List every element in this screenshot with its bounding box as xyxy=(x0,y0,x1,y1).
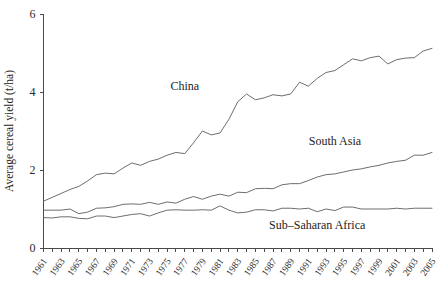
x-tick-label: 1999 xyxy=(366,256,385,278)
x-tick-label: 1997 xyxy=(348,256,367,278)
y-tick-label: 0 xyxy=(30,241,36,255)
x-tick-label: 1963 xyxy=(48,256,67,278)
y-tick-label: 2 xyxy=(30,163,36,177)
series-label-sub-saharan-africa: Sub–Saharan Africa xyxy=(269,218,366,232)
series-group xyxy=(44,48,433,218)
series-line-south-asia xyxy=(44,152,433,213)
series-line-china xyxy=(44,48,433,201)
y-axis-title: Average cereal yield (t/ha) xyxy=(3,70,16,192)
series-label-south-asia: South Asia xyxy=(309,134,362,148)
x-tick-label: 1993 xyxy=(313,256,332,278)
x-tick-label: 1991 xyxy=(295,256,314,278)
x-tick-label: 1967 xyxy=(83,256,102,278)
x-tick-label: 2001 xyxy=(383,256,402,278)
x-tick-label: 2005 xyxy=(419,256,438,278)
y-tick-label-group: 0246 xyxy=(30,7,36,255)
x-tick-label: 1975 xyxy=(154,256,173,278)
series-label-china: China xyxy=(170,79,199,93)
x-tick-label: 1989 xyxy=(277,256,296,278)
y-tick-group xyxy=(40,14,44,248)
y-axis: 0246 xyxy=(30,7,44,255)
series-label-group: ChinaSouth AsiaSub–Saharan Africa xyxy=(170,79,366,231)
x-tick-label: 1969 xyxy=(101,256,120,278)
x-tick-label: 1965 xyxy=(65,256,84,278)
x-tick-label: 2003 xyxy=(401,256,420,278)
cereal-yield-chart: 0246 19611963196519671969197119731975197… xyxy=(0,0,445,291)
x-tick-label-group: 1961196319651967196919711973197519771979… xyxy=(30,256,438,278)
chart-canvas: 0246 19611963196519671969197119731975197… xyxy=(0,0,445,291)
x-tick-label: 1985 xyxy=(242,256,261,278)
x-tick-label: 1981 xyxy=(207,256,226,278)
x-tick-label: 1971 xyxy=(118,256,137,278)
x-tick-label: 1979 xyxy=(189,256,208,278)
x-axis: 1961196319651967196919711973197519771979… xyxy=(30,248,438,278)
y-tick-label: 6 xyxy=(30,7,36,21)
x-tick-label: 1977 xyxy=(171,256,190,278)
x-tick-label: 1995 xyxy=(330,256,349,278)
x-tick-label: 1987 xyxy=(260,256,279,278)
x-tick-label: 1983 xyxy=(224,256,243,278)
x-tick-label: 1961 xyxy=(30,256,49,278)
y-tick-label: 4 xyxy=(30,85,36,99)
x-tick-label: 1973 xyxy=(136,256,155,278)
